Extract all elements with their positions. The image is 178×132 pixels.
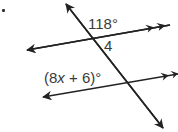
angle-expression-label: (8x + 6)° bbox=[44, 70, 101, 85]
expression-variable: x bbox=[57, 69, 65, 86]
expression-suffix: + 6)° bbox=[65, 69, 101, 86]
expression-prefix: (8 bbox=[44, 69, 57, 86]
parallel-mark-icon bbox=[170, 70, 178, 79]
angle-label-118: 118° bbox=[88, 16, 118, 31]
angle-number-label: 4 bbox=[104, 38, 112, 53]
